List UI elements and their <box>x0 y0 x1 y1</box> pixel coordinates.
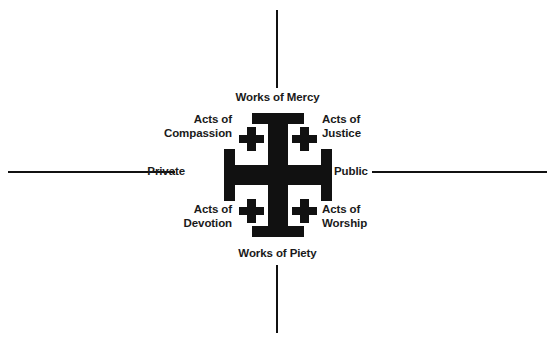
label-acts-of-devotion: Acts of Devotion <box>120 202 232 230</box>
label-works-of-mercy: Works of Mercy <box>0 90 555 104</box>
label-acts-of-justice: Acts of Justice <box>322 112 432 140</box>
label-private: Private <box>120 164 185 178</box>
jerusalem-cross-icon <box>222 111 334 239</box>
label-acts-of-worship: Acts of Worship <box>322 202 432 230</box>
label-works-of-piety: Works of Piety <box>0 246 555 260</box>
axis-line-bottom <box>276 265 278 333</box>
wesleyan-quadrant-diagram: Works of Mercy Works of Piety Private Pu… <box>0 0 555 343</box>
label-acts-of-compassion: Acts of Compassion <box>120 112 232 140</box>
axis-line-top <box>276 10 278 88</box>
label-public: Public <box>334 164 414 178</box>
